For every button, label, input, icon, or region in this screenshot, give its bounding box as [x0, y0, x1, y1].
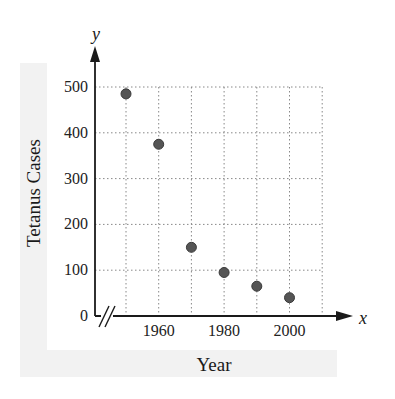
x-tick-label: 1980 — [208, 322, 240, 339]
x-axis-variable: x — [358, 308, 367, 328]
plot-panel — [47, 40, 387, 350]
y-tick-label: 200 — [64, 215, 88, 232]
data-point — [219, 267, 229, 277]
y-tick-label: 400 — [64, 124, 88, 141]
scatter-chart: 0100200300400500 196019802000 y x Tetanu… — [0, 0, 395, 399]
data-point — [252, 281, 262, 291]
x-axis-title: Year — [196, 354, 232, 375]
x-tick-label: 1960 — [143, 322, 175, 339]
x-tick-labels: 196019802000 — [143, 322, 306, 339]
y-tick-label: 300 — [64, 170, 88, 187]
data-point — [285, 293, 295, 303]
y-axis-title: Tetanus Cases — [23, 139, 44, 247]
data-point — [154, 139, 164, 149]
y-tick-label: 0 — [80, 307, 88, 324]
x-tick-label: 2000 — [274, 322, 306, 339]
x-title-panel — [20, 350, 337, 377]
y-tick-label: 500 — [64, 78, 88, 95]
y-tick-label: 100 — [64, 261, 88, 278]
data-point — [121, 89, 131, 99]
data-point — [186, 242, 196, 252]
y-axis-variable: y — [90, 24, 100, 44]
